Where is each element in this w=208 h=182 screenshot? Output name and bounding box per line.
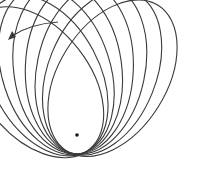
precession-arrow — [12, 22, 58, 36]
orbit-precession-diagram — [0, 0, 208, 182]
orbit-ellipse-7 — [20, 0, 185, 173]
focus-point — [75, 133, 79, 137]
